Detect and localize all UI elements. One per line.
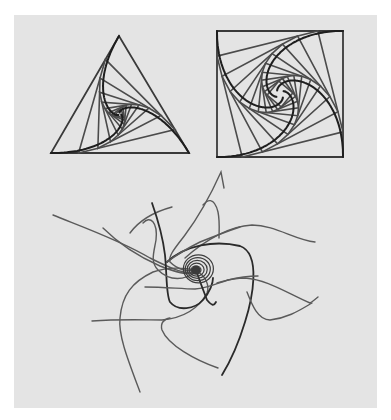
flow-line [145,280,228,289]
vortex-flow-lines [53,172,318,392]
vortex-core [192,266,201,275]
nested-square-spiral [217,31,343,157]
flow-line [161,318,218,368]
flow-line [170,172,224,271]
flow-line [247,292,312,320]
triangle-pursuit-curve [119,107,189,153]
figure-canvas [0,0,391,420]
nested-triangle-spiral [51,36,189,153]
flow-line [185,225,315,258]
flow-line [203,201,219,238]
flow-line [53,215,196,273]
square-level-4 [240,54,321,135]
triangle-level-0 [51,36,189,153]
flow-line [167,244,253,375]
square-level-0 [217,31,343,157]
square-level-1 [217,31,343,157]
flow-line [92,272,208,321]
flow-line [217,278,318,303]
